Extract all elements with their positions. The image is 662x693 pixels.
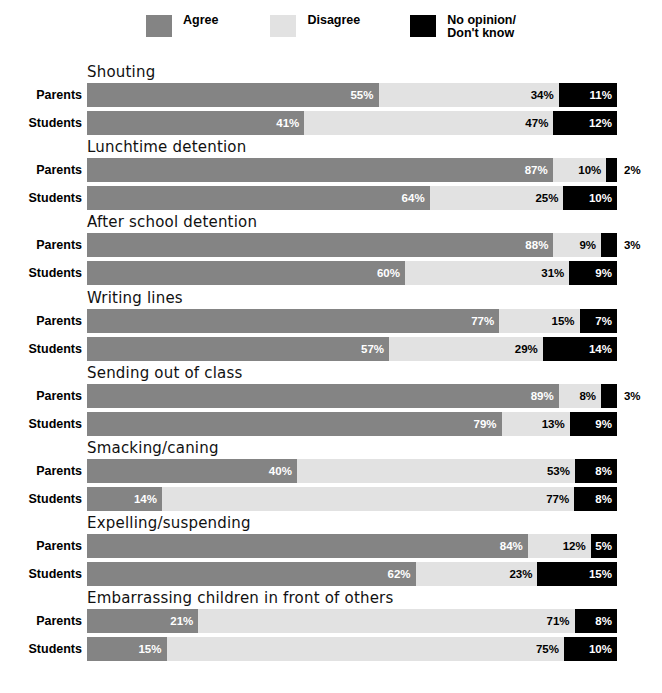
bar-segment-value: 12% [589, 117, 617, 129]
stacked-bar: 79%13%9% [87, 412, 617, 436]
bar-row: Students60%31%9% [0, 261, 662, 285]
bar-group: Embarrassing children in front of others… [0, 589, 662, 661]
row-label-students: Students [0, 261, 82, 285]
bar-segment-agree: 14% [87, 487, 162, 511]
bar-segment-disagree: 29% [389, 337, 543, 361]
bar-row: Parents84%12%5% [0, 534, 662, 558]
bar-row: Students62%23%15% [0, 562, 662, 586]
bar-segment-agree: 84% [87, 534, 528, 558]
bar-segment-value: 15% [138, 643, 166, 655]
bar-segment-noopinion: 2% [606, 158, 617, 182]
bar-segment-noopinion: 12% [553, 111, 617, 135]
bar-segment-value: 11% [590, 89, 617, 101]
bar-segment-noopinion: 14% [543, 337, 617, 361]
bar-segment-value: 55% [350, 89, 378, 101]
bar-segment-agree: 88% [87, 233, 553, 257]
bar-segment-value: 7% [595, 315, 617, 327]
legend-label-disagree: Disagree [307, 14, 360, 27]
bar-row: Students79%13%9% [0, 412, 662, 436]
bar-row: Students14%77%8% [0, 487, 662, 511]
bar-segment-noopinion: 9% [570, 412, 617, 436]
bar-row: Parents55%34%11% [0, 83, 662, 107]
group-title: After school detention [87, 213, 257, 231]
bar-segment-value: 62% [388, 568, 416, 580]
bar-row: Students15%75%10% [0, 637, 662, 661]
stacked-bar: 55%34%11% [87, 83, 617, 107]
bar-segment-value: 57% [361, 343, 389, 355]
legend-item-no-opinion: No opinion/ Don't know [410, 14, 516, 40]
bar-segment-noopinion: 8% [575, 609, 617, 633]
row-label-students: Students [0, 337, 82, 361]
row-label-students: Students [0, 412, 82, 436]
group-title: Writing lines [87, 289, 183, 307]
bar-segment-value: 9% [579, 239, 601, 251]
bar-row: Parents87%10%2% [0, 158, 662, 182]
row-label-students: Students [0, 637, 82, 661]
stacked-bar: 87%10%2% [87, 158, 617, 182]
group-title: Shouting [87, 63, 155, 81]
bar-segment-value: 60% [377, 267, 405, 279]
bar-segment-agree: 77% [87, 309, 499, 333]
row-label-parents: Parents [0, 309, 82, 333]
bar-segment-noopinion: 7% [580, 309, 617, 333]
bar-segment-value: 9% [595, 267, 617, 279]
stacked-bar-chart: Agree Disagree No opinion/ Don't know Sh… [0, 0, 662, 693]
bar-segment-value: 8% [579, 390, 601, 402]
bar-segment-disagree: 71% [198, 609, 574, 633]
row-label-parents: Parents [0, 534, 82, 558]
group-title: Expelling/suspending [87, 514, 251, 532]
bar-segment-value: 84% [500, 540, 528, 552]
bar-segment-value: 89% [531, 390, 559, 402]
bar-segment-agree: 60% [87, 261, 405, 285]
bar-row: Parents89%8%3% [0, 384, 662, 408]
bar-segment-disagree: 10% [553, 158, 607, 182]
bar-group: Smacking/caningParents40%53%8%Students14… [0, 439, 662, 511]
bar-segment-agree: 40% [87, 459, 297, 483]
stacked-bar: 60%31%9% [87, 261, 617, 285]
bar-segment-value: 14% [589, 343, 617, 355]
bar-segment-agree: 15% [87, 637, 167, 661]
bar-segment-value: 10% [578, 164, 606, 176]
bar-segment-value: 8% [595, 615, 617, 627]
bar-segment-value: 31% [541, 267, 569, 279]
bar-segment-value: 10% [589, 643, 617, 655]
bar-segment-value: 8% [595, 465, 617, 477]
bar-segment-disagree: 77% [162, 487, 574, 511]
bar-segment-value: 64% [402, 192, 430, 204]
bar-segment-agree: 41% [87, 111, 304, 135]
bar-segment-disagree: 12% [528, 534, 591, 558]
bar-row: Students57%29%14% [0, 337, 662, 361]
bar-segment-value: 79% [474, 418, 502, 430]
bar-segment-value: 41% [276, 117, 304, 129]
stacked-bar: 84%12%5% [87, 534, 617, 558]
bar-segment-value: 9% [595, 418, 617, 430]
bar-segment-disagree: 8% [559, 384, 601, 408]
bar-segment-noopinion: 11% [559, 83, 617, 107]
bar-row: Parents21%71%8% [0, 609, 662, 633]
stacked-bar: 89%8%3% [87, 384, 617, 408]
stacked-bar: 14%77%8% [87, 487, 617, 511]
bar-segment-value: 29% [515, 343, 543, 355]
group-title: Lunchtime detention [87, 138, 246, 156]
legend-label-agree: Agree [183, 14, 218, 27]
bar-segment-value: 87% [525, 164, 553, 176]
bar-row: Parents40%53%8% [0, 459, 662, 483]
bar-group: ShoutingParents55%34%11%Students41%47%12… [0, 63, 662, 135]
bar-segment-disagree: 47% [304, 111, 553, 135]
bar-segment-agree: 87% [87, 158, 553, 182]
bar-segment-value: 2% [617, 164, 641, 176]
row-label-parents: Parents [0, 158, 82, 182]
bar-segment-value: 34% [531, 89, 559, 101]
bar-segment-value: 3% [617, 239, 641, 251]
legend-label-no-opinion: No opinion/ Don't know [447, 14, 516, 40]
stacked-bar: 88%9%3% [87, 233, 617, 257]
stacked-bar: 40%53%8% [87, 459, 617, 483]
bar-row: Students64%25%10% [0, 186, 662, 210]
group-title: Embarrassing children in front of others [87, 589, 394, 607]
bar-segment-value: 53% [547, 465, 575, 477]
bar-group: Expelling/suspendingParents84%12%5%Stude… [0, 514, 662, 586]
legend-swatch-no-opinion [410, 15, 436, 37]
bar-segment-value: 15% [589, 568, 617, 580]
bar-group: Lunchtime detentionParents87%10%2%Studen… [0, 138, 662, 210]
bar-segment-noopinion: 9% [569, 261, 617, 285]
